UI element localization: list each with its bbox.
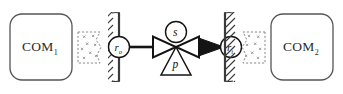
com2-label: COM2 (283, 39, 319, 57)
cloud-right-outline (242, 32, 265, 63)
com1-label: COM1 (22, 39, 58, 57)
wall-left-cap-bottom (112, 81, 119, 82)
cloud-left-group (78, 32, 101, 63)
com1-box-group: COM1 (10, 14, 72, 80)
port-out-group: ro (109, 37, 130, 58)
valve-param-label: p (172, 58, 179, 71)
diagram-svg: COM1 (0, 0, 343, 94)
valve-state-label: s (173, 26, 178, 38)
valve-group: s p (153, 22, 199, 76)
wall-left-cap-top (112, 13, 119, 14)
cloud-right-group (242, 32, 265, 63)
cloud-left-outline (78, 32, 101, 63)
wall-right-cap-bottom (225, 81, 233, 82)
port-in-group: ri (221, 37, 242, 58)
com2-box-group: COM2 (271, 14, 333, 80)
diagram-canvas: COM1 (0, 0, 343, 94)
wall-right-cap-top (225, 13, 233, 14)
